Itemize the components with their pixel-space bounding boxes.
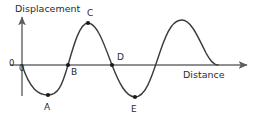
point-label-c: C (87, 9, 93, 18)
point-label-e: E (131, 105, 137, 114)
origin-label-right: 0 (19, 64, 24, 73)
x-axis-label: Distance (183, 70, 225, 80)
point-marker-d (110, 63, 114, 67)
point-label-b: B (71, 68, 77, 77)
point-label-a: A (44, 103, 50, 112)
point-marker-b (66, 63, 70, 67)
y-axis-label: Displacement (15, 4, 80, 14)
point-marker-a (46, 93, 50, 97)
origin-label-left: 0 (9, 59, 14, 68)
point-marker-c (86, 21, 90, 25)
point-label-d: D (117, 53, 124, 62)
wave-diagram: Displacement Distance 0 0 A B C D E (0, 0, 264, 122)
point-marker-e (133, 95, 137, 99)
